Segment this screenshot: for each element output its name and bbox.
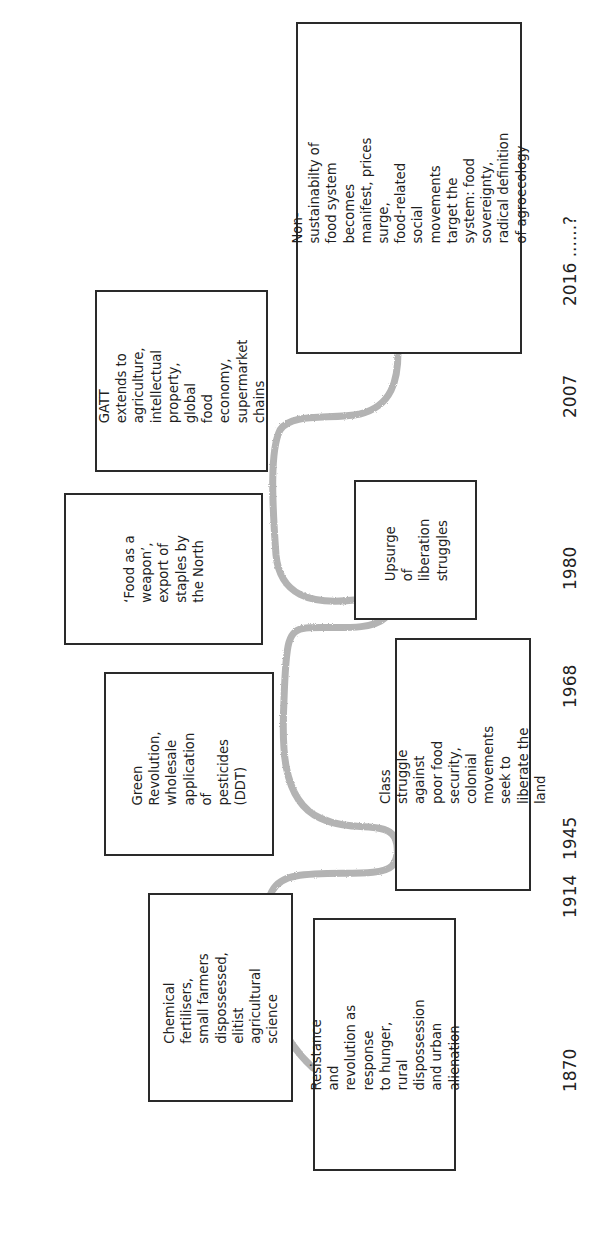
event-text: Chemical fertilisers, small farmers disp…: [160, 952, 280, 1044]
event-box-food-weapon: ‘Food as a weapon’, export of staples by…: [64, 493, 263, 645]
event-text: Upsurge of liberation struggles: [381, 519, 450, 582]
event-box-upsurge: Upsurge of liberation struggles: [354, 480, 477, 620]
year-label-1968: 1968: [560, 665, 580, 708]
event-text: Class struggle against poor food securit…: [377, 725, 549, 803]
event-box-chemical: Chemical fertilisers, small farmers disp…: [148, 893, 293, 1102]
year-label-1914: 1914: [560, 875, 580, 918]
year-label-1980: 1980: [560, 547, 580, 590]
year-label-2007: 2007: [560, 375, 580, 418]
year-label-2016: 2016 ......?: [560, 216, 580, 306]
event-text: Non-sustainabilty of food system becomes…: [289, 133, 530, 244]
timeline-diagram: Non-sustainabilty of food system becomes…: [0, 0, 608, 1246]
event-box-class-struggle: Class struggle against poor food securit…: [395, 638, 531, 891]
event-box-non-sustainability: Non-sustainabilty of food system becomes…: [296, 22, 522, 354]
event-text: ‘Food as a weapon’, export of staples by…: [120, 535, 206, 603]
event-box-gatt: GATT extends to agriculture, intellectua…: [95, 290, 268, 472]
year-label-1945: 1945: [560, 817, 580, 860]
event-text: GATT extends to agriculture, intellectua…: [95, 339, 267, 424]
event-text: Green Revolution, wholesale application …: [129, 723, 249, 806]
event-box-resistance: Resistance and revolution as response to…: [313, 918, 456, 1171]
year-label-1870: 1870: [560, 1049, 580, 1092]
event-text: Resistance and revolution as response to…: [307, 999, 462, 1090]
event-box-green-revolution: Green Revolution, wholesale application …: [104, 672, 274, 856]
